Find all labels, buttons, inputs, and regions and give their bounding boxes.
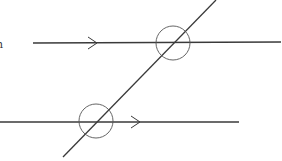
- top-parallel-line: [33, 42, 281, 43]
- bottom-intersection-circle: [79, 104, 113, 138]
- parallel-lines-diagram: [0, 0, 282, 161]
- transversal-line: [63, 0, 216, 157]
